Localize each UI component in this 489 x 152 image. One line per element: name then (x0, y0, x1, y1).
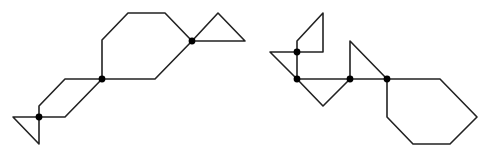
top-quadrilateral-edges (297, 13, 323, 52)
hexagon-edges (387, 79, 477, 144)
middle-triangle-edges (350, 41, 387, 79)
bottom-v-edges (297, 79, 350, 106)
junction-node (36, 114, 43, 121)
diagram-canvas (0, 0, 489, 152)
left-parallelogram-edges (39, 79, 102, 117)
left-triangle-edges (13, 117, 39, 144)
left-figure (13, 13, 245, 144)
junction-node (189, 38, 196, 45)
octagon-body-edges (102, 13, 192, 79)
junction-node (347, 76, 354, 83)
junction-node (384, 76, 391, 83)
junction-node (294, 76, 301, 83)
left-triangle-edges (270, 52, 297, 79)
right-figure (270, 13, 477, 144)
junction-node (294, 49, 301, 56)
right-triangle-edges (192, 13, 245, 41)
junction-node (99, 76, 106, 83)
